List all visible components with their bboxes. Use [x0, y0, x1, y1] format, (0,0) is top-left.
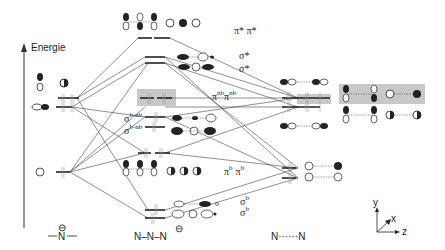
svg-text:σb-nb: σb-nb [124, 123, 143, 136]
right-pi-lower-icon [343, 106, 421, 123]
svg-text:π* π*: π* π* [234, 25, 257, 36]
pi-b-y-orbitals-icon [123, 160, 157, 176]
svg-text:σb: σb [240, 205, 249, 218]
y-axis-label: y [373, 197, 378, 208]
left-orbitals [32, 73, 68, 176]
sigma-star-1-orbitals-icon [177, 53, 214, 61]
svg-text:⊖: ⊖ [175, 223, 183, 234]
pi-star-y-orbitals-icon [123, 13, 157, 30]
x-axis-label: x [391, 213, 396, 224]
highlight-box-right-level [297, 94, 331, 104]
right-s-orbitals-icon [305, 162, 342, 181]
sigma-star-2-orbitals-icon [178, 63, 214, 71]
svg-text:πnbπnb: πnbπnb [212, 89, 237, 102]
svg-text:σ*: σ* [239, 63, 249, 74]
svg-text:σ*: σ* [239, 50, 249, 61]
sigma-bnb-1-orbitals-icon [172, 114, 216, 122]
mo-diagram: Energie [0, 0, 445, 250]
p-orbital-lobe-icon [37, 73, 43, 81]
left-column-label: N [58, 231, 65, 242]
right-electrons [288, 92, 320, 184]
coordinate-axes [375, 207, 400, 234]
middle-electrons [145, 93, 165, 224]
s-orbital-icon [36, 168, 44, 176]
pi-star-x-orbitals-icon [166, 19, 200, 27]
right-column-label: N······N [271, 231, 305, 242]
pi-b-x-orbitals-icon [167, 167, 201, 175]
middle-column-label: N–N–N [134, 231, 167, 242]
energy-label: Energie [31, 42, 66, 53]
right-sigma-lower-icon [280, 123, 328, 129]
orbital-labels: π* π* σ* σ* πnbπnb σb-nb σb-nb πbπb σb σ… [124, 25, 257, 218]
sigma-bnb-2-orbitals-icon [171, 127, 216, 135]
z-axis-label: z [402, 226, 407, 237]
energy-axis [21, 43, 27, 228]
right-sigma-upper-icon [280, 79, 328, 85]
pz-orbital-icon [32, 104, 42, 110]
sigma-b-2-orbitals-icon [172, 210, 217, 218]
svg-text:πbπb: πbπb [224, 164, 245, 177]
column-labels: ⊖ N N–N–N ⊖ N······N [48, 222, 305, 242]
